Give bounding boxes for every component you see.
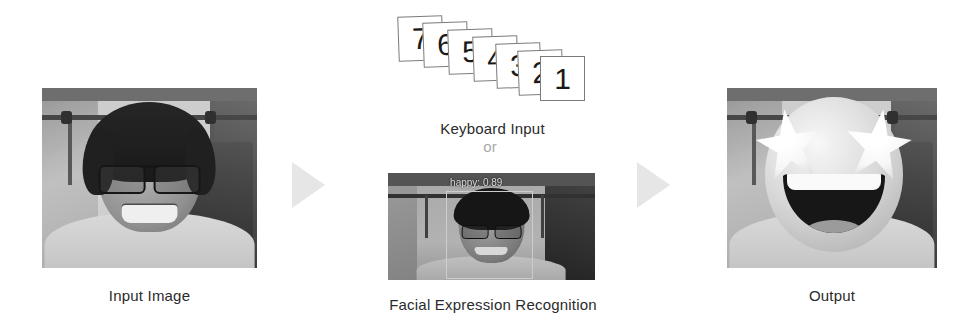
emoji-tongue	[805, 220, 862, 233]
keyboard-input-caption: Keyboard Input	[390, 120, 595, 137]
fer-scene-post-right	[541, 195, 544, 238]
output-photograph	[727, 88, 937, 268]
fer-scene-post-left	[425, 195, 428, 238]
star-struck-emoji-icon	[765, 97, 904, 252]
key-card: 1	[540, 56, 585, 101]
keyboard-input-panel: 7 6 5 4 3 2 1	[390, 12, 595, 112]
input-glasses-icon	[98, 165, 200, 190]
emoji-teeth	[787, 174, 881, 189]
input-person-smile	[122, 205, 178, 223]
output-image-caption: Output	[727, 287, 937, 304]
input-scene-knob-left	[61, 111, 72, 124]
fer-glasses-lens-left	[462, 225, 489, 239]
input-glasses-lens-left	[98, 165, 145, 194]
arrow-right-icon-2	[637, 162, 670, 208]
figure-stage: Input Image 7 6 5 4 3 2 1 Keyboard Input…	[0, 0, 980, 336]
fer-glasses-lens-right	[494, 225, 521, 239]
input-image-panel	[42, 88, 257, 268]
facial-expression-recognition-caption: Facial Expression Recognition	[358, 296, 628, 313]
output-scene-knob-left	[746, 111, 757, 124]
fer-scene-wall-left	[388, 186, 417, 280]
fer-glasses-icon	[462, 225, 522, 237]
input-photograph	[42, 88, 257, 268]
facial-expression-recognition-panel: happy: 0.89	[388, 173, 595, 280]
fer-person-smile	[475, 247, 508, 255]
input-person	[72, 102, 227, 268]
fer-webcam-frame: happy: 0.89	[388, 173, 595, 280]
input-image-caption: Input Image	[42, 287, 257, 304]
arrow-right-icon-1	[292, 162, 325, 208]
face-detection-label: happy: 0.89	[450, 177, 502, 188]
input-glasses-lens-right	[154, 165, 201, 194]
fer-person	[450, 188, 533, 280]
output-image-panel	[727, 88, 937, 268]
